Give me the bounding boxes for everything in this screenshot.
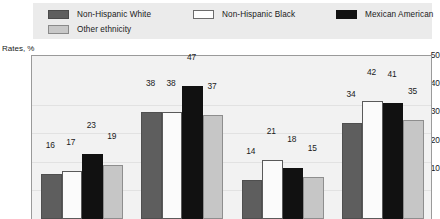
bar-value-label: 19 — [107, 131, 116, 141]
legend-row-secondary: Other ethnicity — [48, 22, 432, 36]
bar-value-label: 42 — [367, 67, 376, 77]
bar — [141, 112, 162, 219]
bar — [162, 112, 183, 219]
bar-value-label: 35 — [408, 86, 417, 96]
light-gray-swatch-icon — [48, 25, 69, 34]
bar — [383, 103, 404, 219]
legend-entry-non-hispanic-white: Non-Hispanic White — [48, 10, 151, 19]
bar-value-label: 14 — [246, 146, 255, 156]
bar — [182, 86, 203, 219]
bar — [203, 115, 224, 219]
dark-gray-swatch-icon — [48, 10, 69, 19]
bar-value-label: 38 — [166, 78, 175, 88]
bar-value-label: 17 — [66, 137, 75, 147]
bar — [242, 180, 263, 219]
bar — [82, 154, 103, 219]
bar-value-label: 41 — [387, 69, 396, 79]
legend-label: Other ethnicity — [77, 25, 131, 34]
bar — [362, 101, 383, 219]
legend-entry-other-ethnicity: Other ethnicity — [48, 25, 131, 34]
bar-value-label: 37 — [207, 81, 216, 91]
chart-plot-wrapper: 1020304050 16172319383847371421181534424… — [0, 52, 440, 219]
bar-value-label: 16 — [46, 140, 55, 150]
bar-value-label: 15 — [308, 143, 317, 153]
bar — [342, 123, 363, 219]
bar — [403, 120, 424, 219]
bar — [103, 165, 124, 219]
black-swatch-icon — [336, 10, 357, 19]
legend-entry-mexican-american: Mexican American — [336, 10, 434, 19]
bar-value-label: 23 — [87, 120, 96, 130]
bar-value-label: 38 — [146, 78, 155, 88]
bar — [41, 174, 62, 219]
legend-label: Mexican American — [365, 10, 434, 19]
bar-value-label: 47 — [187, 52, 196, 62]
bar-value-label: 34 — [346, 89, 355, 99]
bar — [303, 177, 324, 219]
bar — [62, 171, 83, 219]
legend-entry-non-hispanic-black: Non-Hispanic Black — [193, 10, 295, 19]
chart-legend: Non-Hispanic White Non-Hispanic Black Me… — [33, 3, 432, 39]
legend-label: Non-Hispanic Black — [222, 10, 295, 19]
chart-plot-area — [31, 55, 432, 219]
bar — [262, 160, 283, 219]
legend-row-primary: Non-Hispanic White Non-Hispanic Black Me… — [48, 7, 432, 21]
bar-value-label: 18 — [287, 134, 296, 144]
bar-value-label: 21 — [267, 126, 276, 136]
bar — [283, 168, 304, 219]
legend-label: Non-Hispanic White — [77, 10, 151, 19]
white-swatch-icon — [193, 10, 214, 19]
